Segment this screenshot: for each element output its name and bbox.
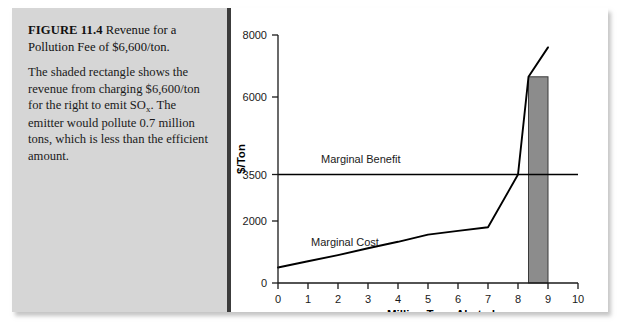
figure-caption-body: The shaded rectangle shows the revenue f… [28,64,214,165]
x-axis-title: Million Tons Abated [387,308,495,312]
figure-container: FIGURE 11.4 Revenue for a Pollution Fee … [0,0,624,330]
chart-panel: 8000 6000 3500 2000 0 [231,8,608,312]
x-tick-label-1: 1 [305,293,311,305]
x-tick-label-4: 4 [395,293,401,305]
x-tick-label-9: 9 [545,293,551,305]
x-tick-label-8: 8 [515,293,521,305]
x-tick-label-3: 3 [365,293,371,305]
figure-number-label: FIGURE 11.4 [28,23,103,37]
x-tick-label-0: 0 [275,293,281,305]
y-axis-title: $/Ton [235,144,247,174]
x-axis-ticks [278,283,578,289]
caption-subscript: x [146,104,151,114]
marginal-cost-label: Marginal Cost [311,236,379,248]
revenue-rectangle [529,77,549,283]
figure-caption-title: FIGURE 11.4 Revenue for a Pollution Fee … [28,22,214,55]
x-tick-label-7: 7 [485,293,491,305]
marginal-cost-curve [278,47,548,267]
x-tick-label-2: 2 [335,293,341,305]
x-tick-label-10: 10 [572,293,584,305]
caption-panel: FIGURE 11.4 Revenue for a Pollution Fee … [12,8,228,312]
x-axis-tick-labels: 0 1 2 3 4 5 6 7 8 9 10 [275,293,584,305]
x-tick-label-6: 6 [455,293,461,305]
y-tick-label-2000: 2000 [243,215,267,227]
x-tick-label-5: 5 [425,293,431,305]
marginal-cost-benefit-chart: 8000 6000 3500 2000 0 [231,8,608,312]
y-tick-label-8000: 8000 [243,29,267,41]
y-tick-label-0: 0 [261,277,267,289]
y-tick-label-6000: 6000 [243,91,267,103]
marginal-benefit-label: Marginal Benefit [321,153,401,165]
y-axis-ticks [272,35,278,283]
